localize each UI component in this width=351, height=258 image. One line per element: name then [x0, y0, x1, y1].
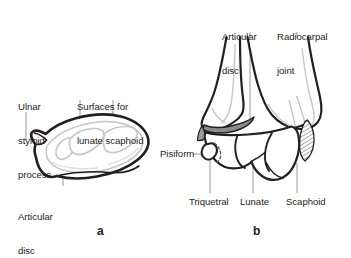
label-pisiform: Pisiform [160, 148, 194, 159]
label-radiocarpal-joint: Radiocarpal joint [277, 8, 328, 99]
label-line: disc [18, 245, 53, 256]
pisiform-bone [202, 143, 217, 159]
label-line: Articular [222, 31, 257, 42]
label-line: Radiocarpal [277, 31, 328, 42]
label-ulnar-styloid-process: Ulnar styloid process [18, 78, 51, 203]
label-line: Surfaces for [77, 101, 143, 112]
label-line: joint [277, 65, 328, 76]
label-lunate: Lunate [240, 196, 269, 207]
label-scaphoid: Scaphoid [286, 196, 326, 207]
carpal-row-outline [205, 127, 300, 180]
label-line: Articular [18, 211, 53, 222]
label-triquetral: Triquetral [189, 196, 229, 207]
label-line: Ulnar [18, 101, 51, 112]
label-articular-disc-panel-b: Articular disc [222, 8, 257, 99]
label-line: process [18, 169, 51, 180]
label-articular-disc-panel-a: Articular disc [18, 188, 53, 258]
label-line: disc [222, 65, 257, 76]
label-line: styloid [18, 135, 51, 146]
panel-letter-b: b [253, 224, 260, 238]
panel-letter-a: a [97, 224, 104, 238]
label-line: lunate scaphoid [77, 135, 143, 146]
label-surfaces-for-lunate-scaphoid: Surfaces for lunate scaphoid [77, 78, 143, 169]
